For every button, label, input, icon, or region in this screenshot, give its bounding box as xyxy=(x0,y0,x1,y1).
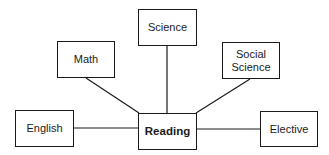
node-label: English xyxy=(26,122,62,135)
node-label: Math xyxy=(74,53,98,66)
node-label: Social Science xyxy=(231,48,271,74)
node-english: English xyxy=(15,110,74,147)
node-label: Elective xyxy=(270,123,309,136)
center-label: Reading xyxy=(145,125,190,138)
node-social-science: Social Science xyxy=(222,42,280,79)
edge-social-reading xyxy=(196,79,250,113)
node-elective: Elective xyxy=(260,111,318,147)
node-label: Science xyxy=(148,21,187,34)
node-math: Math xyxy=(57,41,115,78)
node-science: Science xyxy=(138,9,197,46)
edge-math-reading xyxy=(86,78,139,113)
node-reading-center: Reading xyxy=(138,113,197,150)
